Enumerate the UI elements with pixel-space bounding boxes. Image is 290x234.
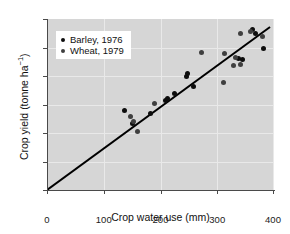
x-axis-line [47, 190, 275, 191]
legend-label: Wheat, 1979 [70, 45, 124, 56]
legend-item-wheat: Wheat, 1979 [61, 45, 124, 56]
y-axis-title-exponent: −1 [16, 57, 25, 66]
data-point [238, 62, 243, 67]
data-point [148, 111, 153, 116]
data-point [222, 51, 227, 56]
data-point [199, 50, 204, 55]
y-axis-title: Crop yield (tonne ha−1) [16, 22, 30, 192]
x-axis-title: Crop water use (mm) [47, 211, 274, 223]
gridline-horizontal [47, 162, 274, 163]
y-axis-title-tail: ) [18, 53, 30, 57]
gridline-horizontal [47, 133, 274, 134]
data-point [261, 46, 266, 51]
y-axis-title-base: Crop yield (tonne ha [18, 66, 30, 161]
legend-marker-icon [61, 49, 65, 53]
scatter-chart-figure: 0 1 2 3 4 5 6 0 100 200 300 400 Barley, … [0, 0, 290, 234]
legend-label: Barley, 1976 [70, 34, 123, 45]
legend-marker-icon [61, 38, 65, 42]
data-point [191, 84, 196, 89]
data-point [238, 31, 243, 36]
data-point [165, 96, 170, 101]
data-point [248, 29, 253, 34]
data-point [172, 91, 177, 96]
data-point [131, 119, 136, 124]
data-point [231, 63, 236, 68]
gridline-horizontal [47, 105, 274, 106]
data-point [152, 101, 157, 106]
legend-item-barley: Barley, 1976 [61, 34, 124, 45]
chart-legend: Barley, 1976 Wheat, 1979 [56, 31, 131, 59]
gridline-horizontal [47, 76, 274, 77]
y-axis-line [47, 19, 48, 191]
data-point [253, 31, 258, 36]
data-point [135, 129, 140, 134]
data-point [122, 108, 127, 113]
data-point [260, 34, 265, 39]
data-point [221, 80, 226, 85]
data-point [185, 71, 190, 76]
